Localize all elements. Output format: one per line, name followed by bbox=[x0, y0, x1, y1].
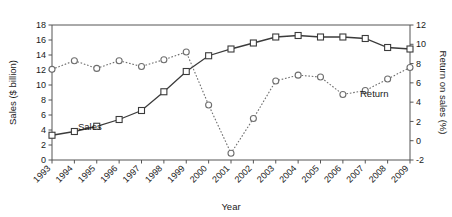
data-point-sales bbox=[49, 132, 55, 138]
data-point-sales bbox=[206, 53, 212, 59]
data-point-return bbox=[407, 64, 413, 70]
data-point-sales bbox=[273, 34, 279, 40]
data-point-return bbox=[183, 49, 189, 55]
data-point-return bbox=[71, 58, 77, 64]
data-point-sales bbox=[139, 108, 145, 114]
x-axis-ticklabel: 1997 bbox=[121, 163, 142, 184]
data-point-return bbox=[116, 58, 122, 64]
data-point-return bbox=[385, 76, 391, 82]
x-axis-ticklabel: 2006 bbox=[322, 163, 343, 184]
data-point-sales bbox=[228, 46, 234, 52]
y-axis-right-ticklabel: 12 bbox=[416, 20, 426, 30]
x-axis-ticklabel: 1995 bbox=[76, 163, 97, 184]
data-point-return bbox=[318, 74, 324, 80]
y-axis-right-ticklabel: 4 bbox=[416, 97, 421, 107]
data-point-return bbox=[139, 63, 145, 69]
x-axis-ticklabel: 2005 bbox=[300, 163, 321, 184]
x-axis-ticklabel: 2009 bbox=[389, 163, 410, 184]
y-axis-left-ticklabel: 16 bbox=[36, 35, 46, 45]
data-point-return bbox=[340, 91, 346, 97]
data-point-sales bbox=[340, 34, 346, 40]
data-point-sales bbox=[71, 129, 77, 135]
x-axis-ticklabel: 2000 bbox=[188, 163, 209, 184]
x-axis-ticklabel: 2008 bbox=[367, 163, 388, 184]
y-axis-left-ticklabel: 8 bbox=[41, 95, 46, 105]
data-point-return bbox=[206, 102, 212, 108]
y-axis-left-ticklabel: 10 bbox=[36, 80, 46, 90]
data-point-sales bbox=[362, 36, 368, 42]
data-point-sales bbox=[183, 69, 189, 75]
y-axis-left-title: Sales ($ billion) bbox=[7, 60, 18, 125]
y-axis-left-ticklabel: 12 bbox=[36, 65, 46, 75]
y-axis-left-ticklabel: 6 bbox=[41, 110, 46, 120]
y-axis-left-ticklabel: 18 bbox=[36, 20, 46, 30]
y-axis-right-title: Return on sales (%) bbox=[438, 51, 449, 135]
x-axis-ticklabel: 1999 bbox=[165, 163, 186, 184]
data-point-return bbox=[273, 78, 279, 84]
y-axis-right-ticklabel: -2 bbox=[416, 155, 424, 165]
x-axis-ticklabel: 1993 bbox=[31, 163, 52, 184]
data-point-sales bbox=[385, 45, 391, 51]
x-axis-ticklabel: 2004 bbox=[277, 163, 298, 184]
x-axis-ticklabel: 1996 bbox=[98, 163, 119, 184]
chart-figure: 024681012141618-202468101219931994199519… bbox=[0, 0, 452, 217]
series-label-sales: Sales bbox=[78, 121, 102, 132]
y-axis-left-ticklabel: 14 bbox=[36, 50, 46, 60]
chart-canvas: 024681012141618-202468101219931994199519… bbox=[0, 0, 452, 217]
data-point-return bbox=[49, 66, 55, 72]
y-axis-left-ticklabel: 4 bbox=[41, 125, 46, 135]
data-point-return bbox=[250, 116, 256, 122]
x-axis-ticklabel: 2007 bbox=[344, 163, 365, 184]
data-point-return bbox=[295, 72, 301, 78]
data-point-sales bbox=[318, 34, 324, 40]
x-axis-ticklabel: 2001 bbox=[210, 163, 231, 184]
y-axis-left-ticklabel: 2 bbox=[41, 140, 46, 150]
y-axis-right-ticklabel: 10 bbox=[416, 39, 426, 49]
series-line-return bbox=[52, 52, 410, 153]
data-point-sales bbox=[161, 89, 167, 95]
data-point-sales bbox=[116, 117, 122, 123]
data-point-return bbox=[161, 57, 167, 63]
y-axis-right-ticklabel: 8 bbox=[416, 59, 421, 69]
x-axis-title: Year bbox=[221, 201, 240, 212]
data-point-sales bbox=[295, 33, 301, 39]
y-axis-right-ticklabel: 6 bbox=[416, 78, 421, 88]
data-point-sales bbox=[407, 46, 413, 52]
x-axis-ticklabel: 2003 bbox=[255, 163, 276, 184]
series-label-return: Return bbox=[360, 88, 389, 99]
data-point-return bbox=[228, 150, 234, 156]
y-axis-right-ticklabel: 0 bbox=[416, 136, 421, 146]
y-axis-right-ticklabel: 2 bbox=[416, 117, 421, 127]
data-point-return bbox=[94, 65, 100, 71]
x-axis-ticklabel: 1994 bbox=[54, 163, 75, 184]
data-point-sales bbox=[250, 40, 256, 46]
x-axis-ticklabel: 2002 bbox=[233, 163, 254, 184]
x-axis-ticklabel: 1998 bbox=[143, 163, 164, 184]
